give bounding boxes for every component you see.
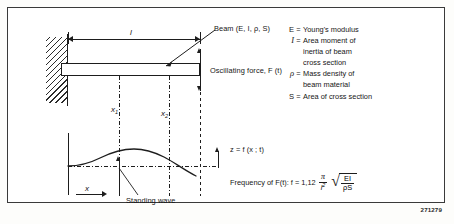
deflection-indicator-line [218, 151, 219, 168]
legend-row: E = Young's modulus [283, 25, 438, 35]
legend-row: S = Area of cross section [283, 92, 438, 102]
standing-wave-leader [116, 166, 156, 198]
figure-border: l Beam (E, I, ρ, S) Oscillating force, F… [7, 7, 445, 203]
x-axis-arrow [102, 191, 107, 197]
legend-row: I = Area moment of [283, 36, 438, 46]
radical-contents: EI ρS [339, 173, 357, 192]
amplitude-arrow [116, 156, 120, 161]
legend-equals [294, 80, 303, 90]
legend-symbol: ρ [283, 69, 294, 79]
legend-equals [294, 47, 303, 57]
deflection-label: z = f (x ; t) [230, 145, 264, 154]
reference-number: 271279 [421, 206, 442, 213]
legend-symbol [283, 58, 294, 68]
legend-symbol [283, 47, 294, 57]
legend-row: ρ = Mass density of [283, 69, 438, 79]
legend-text: beam material [303, 80, 350, 90]
beam-leader-line [158, 28, 218, 70]
length-label: l [130, 28, 132, 37]
pi-over-l-squared: π l2 [319, 173, 328, 191]
formula-prefix: Frequency of F(t): f = 1,12 [230, 178, 316, 187]
position-1-label: x1 [111, 105, 118, 115]
legend-text: Area moment of [303, 36, 356, 46]
force-axis-line [200, 49, 201, 91]
legend-text: Young's modulus [303, 25, 359, 35]
x-axis-line [76, 194, 104, 195]
legend-text: inertia of beam [303, 47, 352, 57]
legend-symbol: E [283, 25, 294, 35]
legend-equals [294, 58, 303, 68]
position-2-label: x2 [161, 109, 168, 119]
legend-row: beam material [283, 80, 438, 90]
square-root-term: √ EI ρS [331, 173, 357, 192]
frequency-formula: Frequency of F(t): f = 1,12 π l2 √ EI ρS [230, 173, 357, 192]
symbol-legend: E = Young's modulus I = Area moment of i… [283, 25, 438, 103]
legend-text: cross section [303, 58, 346, 68]
legend-text: Mass density of [303, 69, 354, 79]
force-arrow-up [197, 48, 201, 53]
legend-symbol: I [283, 36, 294, 46]
formula-pi: π [319, 173, 327, 182]
x-axis-label: x [85, 184, 89, 193]
legend-equals: = [294, 36, 303, 46]
beam-label: Beam (E, I, ρ, S) [214, 24, 270, 33]
legend-symbol [283, 80, 294, 90]
length-extension-left [68, 32, 69, 44]
legend-symbol: S [283, 92, 294, 102]
deflection-arrow [215, 147, 219, 152]
radical-numerator: EI [342, 175, 353, 183]
radical-denominator: ρS [341, 183, 354, 192]
oscillating-force-label: Oscillating force, F (t) [210, 66, 282, 75]
standing-wave-label: Standing wave [126, 196, 175, 205]
legend-text: Area of cross section [303, 92, 372, 102]
figure-canvas: l Beam (E, I, ρ, S) Oscillating force, F… [0, 0, 454, 224]
formula-l-squared: l2 [319, 182, 328, 192]
legend-row: inertia of beam [283, 47, 438, 57]
force-arrow-down [197, 86, 201, 91]
legend-equals: = [294, 25, 303, 35]
legend-equals: = [294, 69, 303, 79]
legend-row: cross section [283, 58, 438, 68]
legend-equals: = [294, 92, 303, 102]
